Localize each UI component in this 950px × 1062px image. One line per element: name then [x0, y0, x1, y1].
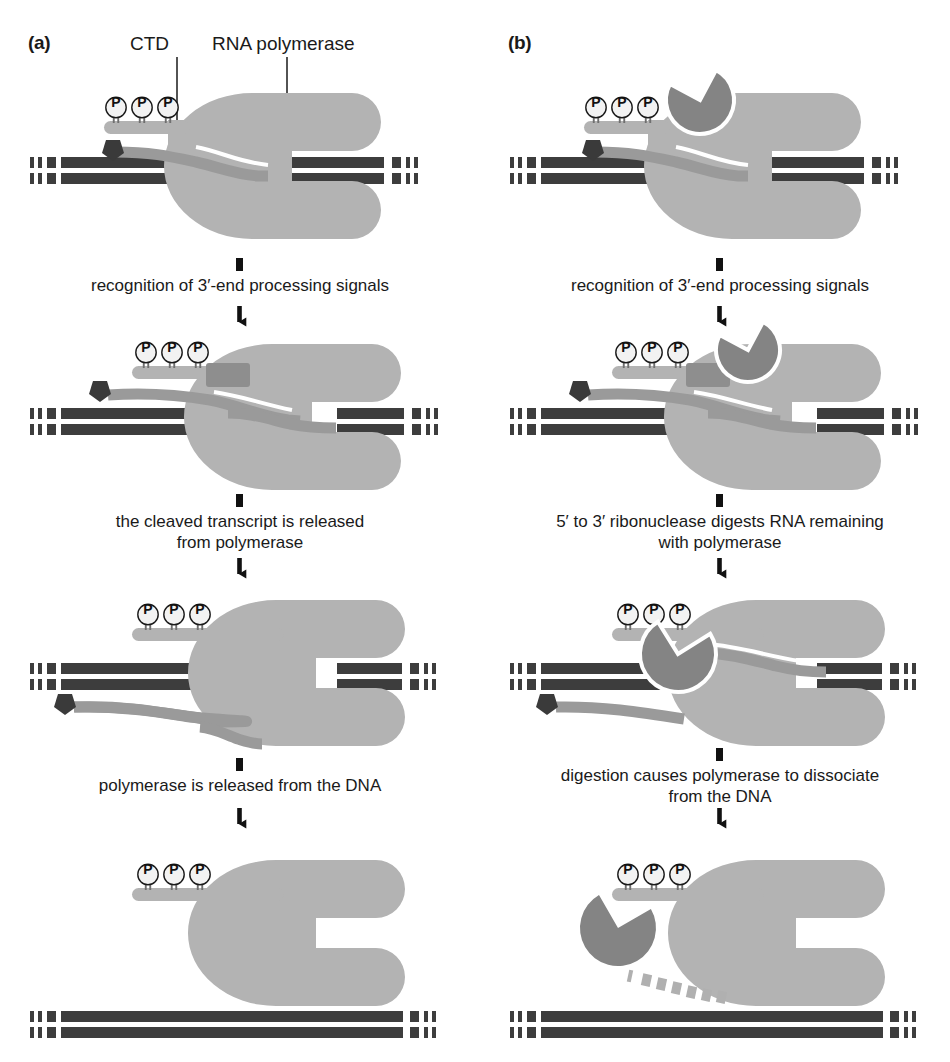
phosphate-letters — [0, 0, 950, 1062]
figure-canvas: (a) (b) CTD RNA polymerase recognition o… — [0, 0, 950, 1062]
